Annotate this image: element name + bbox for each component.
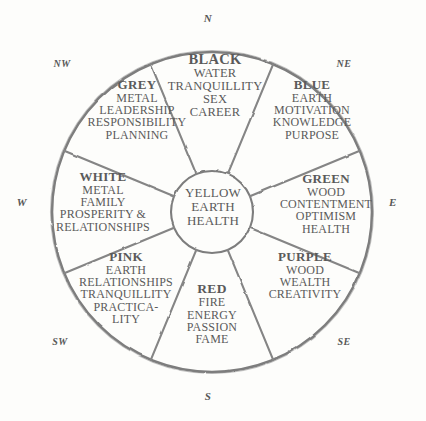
sector-blue: BLUE EARTH MOTIVATION KNOWLEDGE PURPOSE [248, 78, 376, 141]
sector-pink: PINK EARTH RELATIONSHIPS TRANQUILLITY PR… [58, 250, 194, 326]
sector-blue-line-4: PURPOSE [248, 129, 376, 141]
center-hub-text: YELLOW EARTH HEALTH [172, 186, 254, 227]
sector-green-header: GREEN [258, 172, 394, 186]
compass-label-northeast: NE [330, 58, 358, 69]
sector-red-line-4: FAME [164, 333, 260, 345]
sector-pink-line-5: LITY [58, 313, 194, 325]
sector-grey-line-4: PLANNING [62, 129, 212, 141]
compass-label-northwest: NW [48, 58, 76, 69]
sector-pink-header: PINK [58, 250, 194, 264]
sector-black-header: BLACK [145, 52, 285, 67]
sector-white-header: WHITE [32, 170, 174, 184]
sector-white: WHITE METAL FAMILY PROSPERITY & RELATION… [32, 170, 174, 233]
center-line-1: YELLOW [172, 186, 254, 200]
sector-green-line-4: HEALTH [258, 223, 394, 235]
sector-green: GREEN WOOD CONTENTMENT OPTIMISM HEALTH [258, 172, 394, 235]
compass-label-southwest: SW [46, 336, 74, 347]
center-line-3: HEALTH [172, 214, 254, 228]
sector-purple-header: PURPLE [240, 250, 370, 264]
compass-label-south: S [196, 390, 220, 402]
sector-grey-header: GREY [62, 78, 212, 92]
sector-grey: GREY METAL LEADERSHIP RESPONSIBILITY PLA… [62, 78, 212, 141]
bagua-colour-wheel-diagram: N NE E SE S SW W NW BLACK WATER TRANQUIL… [0, 0, 426, 421]
sector-blue-header: BLUE [248, 78, 376, 92]
sector-white-line-4: RELATIONSHIPS [32, 221, 174, 233]
compass-label-north: N [196, 12, 220, 24]
compass-label-west: W [10, 196, 34, 208]
compass-label-southeast: SE [330, 336, 358, 347]
center-line-2: EARTH [172, 200, 254, 214]
